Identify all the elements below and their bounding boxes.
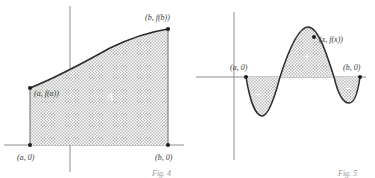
- shaded-area-region: [30, 29, 168, 145]
- figure-sheet: (a, f(a)) (b, f(b)) (a, 0) (b, 0) A Fig.…: [0, 0, 375, 178]
- sign-negative-right: −: [345, 82, 351, 94]
- figure-caption-right: Fig. 5: [337, 169, 357, 178]
- label-point-a-fa: (a, f(a)): [34, 89, 59, 98]
- figure-right-svg: (a, 0) (b, 0) (x, f(x)) − + − Fig. 5: [188, 0, 375, 178]
- label-point-x-fx: (x, f(x)): [319, 35, 343, 44]
- label-foot-b-right: (b, 0): [343, 63, 361, 72]
- point-marker-b-zero: [166, 143, 170, 147]
- figure-left-svg: (a, f(a)) (b, f(b)) (a, 0) (b, 0) A Fig.…: [0, 0, 188, 178]
- figure-panel-left: (a, f(a)) (b, f(b)) (a, 0) (b, 0) A Fig.…: [0, 0, 188, 178]
- point-marker-b-fb: [166, 27, 170, 31]
- point-marker-a-zero-right: [244, 75, 248, 79]
- label-foot-a-right: (a, 0): [230, 63, 248, 72]
- figure-caption-left: Fig. 4: [151, 169, 171, 178]
- sign-positive: +: [304, 50, 310, 62]
- label-foot-b: (b, 0): [155, 153, 173, 162]
- label-foot-a: (a, 0): [17, 153, 35, 162]
- label-area-A: A: [106, 91, 114, 102]
- figure-panel-right: (a, 0) (b, 0) (x, f(x)) − + − Fig. 5: [188, 0, 375, 178]
- point-marker-a-zero: [28, 143, 32, 147]
- sign-negative-left: −: [255, 88, 261, 100]
- point-marker-b-zero-right: [358, 75, 362, 79]
- point-marker-x-fx: [312, 35, 316, 39]
- label-point-b-fb: (b, f(b)): [145, 13, 170, 22]
- point-marker-a-fa: [28, 86, 32, 90]
